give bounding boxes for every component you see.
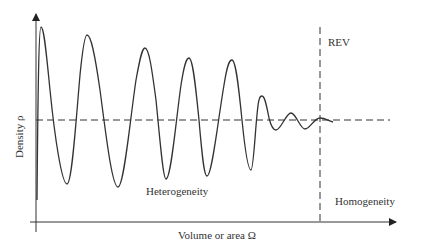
rev-diagram xyxy=(0,0,421,252)
rev-label: REV xyxy=(328,36,350,48)
y-axis-label: Density ρ xyxy=(13,116,25,158)
density-curve xyxy=(37,27,333,200)
x-axis-label: Volume or area Ω xyxy=(178,229,256,241)
heterogeneity-label: Heterogeneity xyxy=(146,185,208,197)
homogeneity-label: Homogeneity xyxy=(335,195,395,207)
